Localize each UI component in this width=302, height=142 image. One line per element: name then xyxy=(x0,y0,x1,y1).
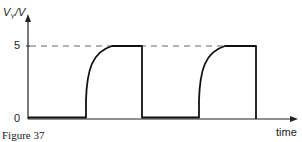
waveform-trace xyxy=(28,46,256,119)
figure-caption: Figure 37 xyxy=(2,129,44,141)
y-axis-arrow-icon xyxy=(25,14,31,22)
y-tick-label-0: 0 xyxy=(14,112,20,124)
x-axis-arrow-icon xyxy=(290,116,298,122)
y-tick-label-5: 5 xyxy=(14,39,20,51)
waveform-chart xyxy=(0,0,302,142)
x-axis-label: time xyxy=(276,126,297,138)
y-axis-label: VY/V xyxy=(3,6,25,20)
